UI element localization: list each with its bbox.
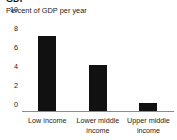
y-tick-label-6: 6 [14, 44, 18, 51]
x-tick-label-upper-middle-income: Upper middle income [123, 116, 173, 136]
y-tick-label-0: 0 [14, 101, 18, 108]
bar-group-low-income: Low income [22, 17, 73, 112]
chart-title: GDP [6, 0, 26, 2]
chart-subtitle: Percent of GDP per year [6, 6, 87, 15]
y-tick-label-4: 4 [14, 63, 18, 70]
bar-group-lower-middle-income: Lower middle income [73, 17, 124, 112]
bar-low-income [38, 36, 56, 112]
y-tick-label-10: 10 [10, 6, 18, 13]
bar-lower-middle-income [89, 65, 107, 113]
bar-group-upper-middle-income: Upper middle income [123, 17, 174, 112]
x-tick-label-low-income: Low income [22, 116, 72, 126]
plot-area: 0 2 4 6 8 10 Low income Lower middle inc… [22, 17, 174, 112]
bar-chart-figure: GDP Percent of GDP per year 0 2 4 6 8 10… [0, 0, 177, 140]
y-tick-label-8: 8 [14, 25, 18, 32]
y-tick-label-2: 2 [14, 82, 18, 89]
x-tick-label-lower-middle-income: Lower middle income [73, 116, 123, 136]
x-axis-baseline [22, 111, 174, 112]
